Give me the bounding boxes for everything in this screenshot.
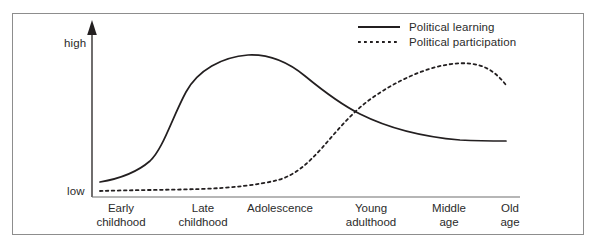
x-axis-category-label: Adolescence — [247, 202, 313, 216]
series-political-learning — [100, 55, 506, 182]
x-axis-category-label: Youngadulthood — [346, 202, 397, 229]
x-axis-category-line1: Middleage — [432, 202, 466, 228]
series-political-participation — [100, 63, 506, 191]
x-axis-category-line1: Oldage — [500, 202, 519, 228]
dotted-line-icon — [358, 37, 402, 47]
x-axis-category-line1: Youngadulthood — [346, 202, 397, 228]
legend-item-political-participation: Political participation — [358, 34, 558, 49]
solid-line-icon — [358, 22, 402, 32]
x-axis-category-line1: Latechildhood — [178, 202, 227, 228]
legend-label: Political participation — [402, 36, 516, 48]
x-axis-category-label: Middleage — [432, 202, 466, 229]
x-axis-category-label: Latechildhood — [178, 202, 227, 229]
x-axis-category-line1: Adolescence — [247, 202, 313, 214]
y-axis-low-label: low — [67, 185, 85, 197]
x-axis-category-line1: Earlychildhood — [96, 202, 145, 228]
legend-label: Political learning — [402, 21, 495, 33]
y-axis-high-label: high — [64, 37, 86, 49]
x-axis-category-label: Earlychildhood — [96, 202, 145, 229]
chart-legend: Political learning Political participati… — [358, 19, 558, 49]
x-axis-category-label: Oldage — [500, 202, 519, 229]
arrow-up-icon — [87, 20, 97, 35]
legend-item-political-learning: Political learning — [358, 19, 558, 34]
chart-figure: high low Earlychildhood Latechildhood Ad… — [0, 0, 597, 250]
